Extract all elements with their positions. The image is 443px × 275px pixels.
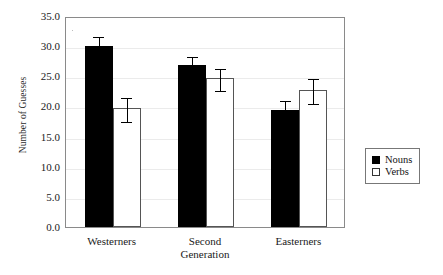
plot-inner	[66, 18, 344, 227]
y-axis-tick-label: 5.0	[16, 192, 60, 203]
bar-verbs-1	[206, 78, 234, 227]
error-bar-whisker	[220, 69, 221, 91]
error-bar-cap-lower	[187, 78, 198, 79]
error-bar-cap-lower	[93, 59, 104, 60]
legend: Nouns Verbs	[365, 148, 420, 184]
legend-item-verbs: Verbs	[372, 167, 412, 178]
error-bar-cap-lower	[121, 122, 132, 123]
error-bar-cap-upper	[308, 79, 319, 80]
y-axis-tick-label: 30.0	[16, 41, 60, 52]
legend-item-nouns: Nouns	[372, 155, 412, 166]
error-bar-whisker	[285, 101, 286, 124]
legend-label-verbs: Verbs	[385, 167, 409, 178]
bar-nouns-0	[85, 46, 113, 227]
bar-nouns-2	[271, 110, 299, 227]
bar-verbs-0	[113, 108, 141, 227]
y-axis-tick-label: 35.0	[16, 11, 60, 22]
error-bar-cap-lower	[280, 124, 291, 125]
error-bar-whisker	[127, 98, 128, 122]
error-bar-cap-upper	[215, 69, 226, 70]
error-bar-whisker	[192, 57, 193, 77]
scan-speck	[72, 30, 73, 31]
y-axis-tick-label: 15.0	[16, 132, 60, 143]
legend-swatch-verbs-icon	[372, 168, 380, 176]
y-axis-tick-labels: 0.05.010.015.020.025.030.035.0	[12, 0, 60, 275]
x-axis-tick-label: Westerners	[65, 235, 158, 248]
error-bar-whisker	[99, 37, 100, 59]
legend-swatch-nouns-icon	[372, 156, 380, 164]
error-bar-cap-upper	[280, 101, 291, 102]
error-bar-cap-lower	[308, 104, 319, 105]
bar-nouns-1	[178, 65, 206, 227]
bar-verbs-2	[299, 90, 327, 227]
error-bar-cap-lower	[215, 91, 226, 92]
legend-label-nouns: Nouns	[385, 155, 412, 166]
x-axis-tick-label: Second Generation	[158, 235, 251, 260]
error-bar-cap-upper	[187, 57, 198, 58]
plot-area	[65, 17, 345, 228]
y-axis-tick-label: 0.0	[16, 222, 60, 233]
x-axis-tick-label: Easterners	[252, 235, 345, 248]
y-axis-tick-label: 10.0	[16, 162, 60, 173]
y-axis-tick-label: 20.0	[16, 101, 60, 112]
bar-chart-figure: Number of Guesses 0.05.010.015.020.025.0…	[0, 0, 443, 275]
y-axis-tick-label: 25.0	[16, 71, 60, 82]
error-bar-cap-upper	[121, 98, 132, 99]
error-bar-cap-upper	[93, 37, 104, 38]
error-bar-whisker	[313, 79, 314, 103]
